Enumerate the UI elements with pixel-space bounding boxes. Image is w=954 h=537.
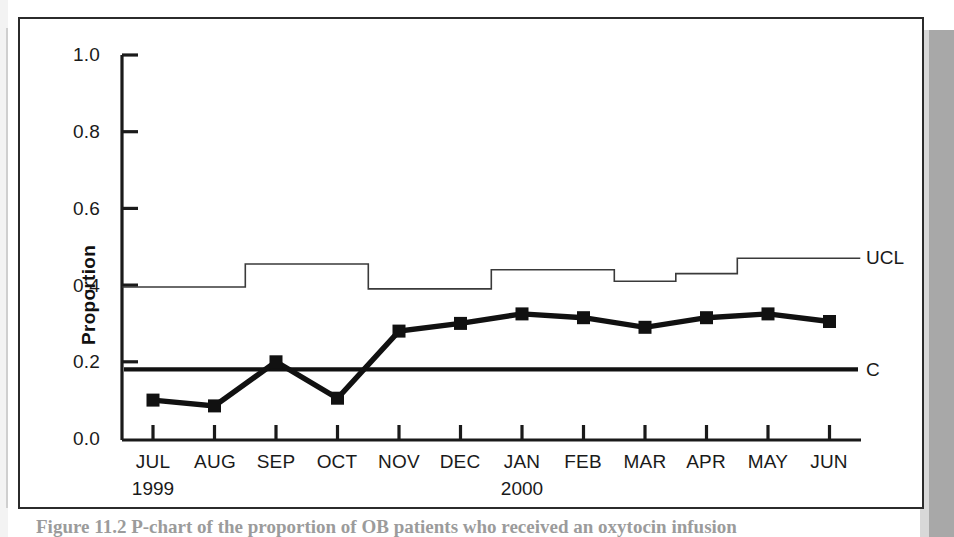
ucl-step-line xyxy=(122,258,860,289)
data-point-marker xyxy=(393,325,406,338)
data-point-marker xyxy=(147,394,160,407)
figure-page: Proportion 1.0 0.8 0.6 0.4 0.2 0.0 JUL A… xyxy=(0,0,954,537)
data-point-marker xyxy=(577,311,590,324)
chart-axes xyxy=(122,55,861,440)
data-point-marker xyxy=(270,355,283,368)
data-point-marker xyxy=(762,307,775,320)
data-point-marker xyxy=(208,399,221,412)
data-point-marker xyxy=(454,317,467,330)
data-point-marker xyxy=(823,315,836,328)
data-point-marker xyxy=(331,392,344,405)
data-point-marker xyxy=(516,307,529,320)
data-point-marker xyxy=(700,311,713,324)
data-point-marker xyxy=(639,321,652,334)
control-chart-plot xyxy=(0,0,954,537)
